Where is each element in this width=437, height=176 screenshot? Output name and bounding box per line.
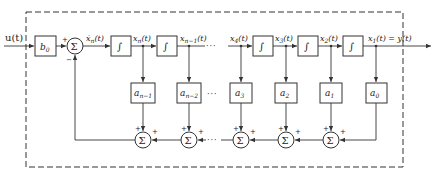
integrator-1: ∫ [111, 36, 131, 56]
svg-text:+: + [233, 125, 239, 133]
integrator-2: ∫ [157, 36, 177, 56]
feedback-sum-4: Σ + + [278, 125, 301, 148]
main-sum-symbol: Σ [71, 41, 78, 52]
gain-ellipsis: ··· [207, 90, 218, 99]
svg-text:+: + [278, 125, 284, 133]
svg-text:+: + [198, 128, 204, 136]
svg-text:+: + [181, 125, 187, 133]
svg-text:+: + [135, 125, 141, 133]
feedback-sum-1: Σ + + [135, 125, 158, 148]
state-label-x4: x4(t) [230, 34, 248, 44]
feedback-sum-3: Σ + + [233, 125, 256, 148]
block-diagram: u(t) b0 Σ + − ẋn(t) ∫ ∫ ∫ ∫ ∫ ··· xn(t) [0, 0, 437, 176]
svg-text:+: + [152, 128, 158, 136]
derivative-label: ẋn(t) [86, 34, 104, 44]
svg-text:∫: ∫ [117, 41, 122, 52]
svg-text:∫: ∫ [349, 41, 354, 52]
svg-text:Σ: Σ [327, 135, 334, 146]
svg-text:+: + [323, 125, 329, 133]
gain-block-a1: a1 [320, 83, 342, 103]
output-label: x1(t) = y(t) [368, 34, 412, 44]
state-label-x2: x2(t) [320, 34, 338, 44]
svg-text:+: + [295, 128, 301, 136]
integrator-5: ∫ [343, 36, 363, 56]
integrator-4: ∫ [298, 36, 318, 56]
svg-text:∫: ∫ [163, 41, 168, 52]
svg-text:Σ: Σ [282, 135, 289, 146]
input-label: u(t) [5, 32, 23, 43]
gain-block-an-2: an−2 [177, 83, 201, 103]
svg-text:∫: ∫ [304, 41, 309, 52]
integrator-3: ∫ [253, 36, 273, 56]
main-sum-minus: − [66, 56, 72, 64]
state-label-x3: x3(t) [275, 34, 293, 44]
forward-ellipsis: ··· [206, 42, 217, 51]
state-label-xn: xn(t) [133, 34, 151, 44]
svg-text:Σ: Σ [185, 135, 192, 146]
feedback-sum-5: Σ + + [323, 125, 346, 148]
svg-text:Σ: Σ [139, 135, 146, 146]
state-label-xn-1: xn−1(t) [180, 34, 207, 44]
feedback-ellipsis: ··· [207, 136, 218, 145]
gain-block-a0: a0 [366, 83, 387, 103]
svg-text:∫: ∫ [259, 41, 264, 52]
svg-text:Σ: Σ [237, 135, 244, 146]
feedback-sum-2: Σ + + [181, 125, 204, 148]
svg-text:+: + [250, 128, 256, 136]
svg-text:+: + [340, 128, 346, 136]
main-sum-plus: + [62, 36, 68, 44]
gain-block-a2: a2 [275, 83, 297, 103]
gain-block-an-1: an−1 [131, 83, 155, 103]
gain-block-a3: a3 [230, 83, 252, 103]
